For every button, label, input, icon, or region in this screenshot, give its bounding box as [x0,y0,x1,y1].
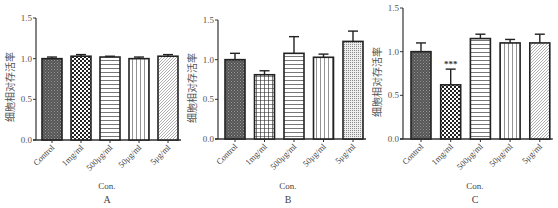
y-tick-label: 1.0 [21,54,33,64]
x-tick-label: Control [214,141,240,167]
x-tick-label: 1mg/ml [243,141,269,167]
x-tick-label: 5μg/ml [520,141,545,166]
x-tick-label: 1mg/ml [429,141,455,167]
bar-1mgml: ***1mg/ml [429,59,460,167]
bar-1mgml: 1mg/ml [60,55,91,169]
x-tick-label: 50μg/ml [487,141,515,169]
y-tick-label: 0.5 [21,94,33,104]
y-tick-label: 1.0 [203,55,215,65]
y-tick-label: 1.5 [21,13,33,23]
y-tick-label: 1.0 [388,47,400,57]
y-tick-label: 0.0 [203,134,215,144]
bar-5gml: 5μg/ml [520,34,550,165]
x-tick-label: 5μg/ml [148,142,173,167]
bar-50gml: 50μg/ml [116,57,149,170]
x-axis-title: Con. [466,181,483,191]
bar-5gml: 5μg/ml [333,31,363,166]
x-tick-label: 500μg/ml [454,141,485,172]
x-tick-label: 5μg/ml [333,141,358,166]
panel-c: 0.00.51.01.5细胞相对存活率Control***1mg/ml500μg… [371,3,553,205]
y-tick-label: 0.5 [388,90,400,100]
bar-50gml: 50μg/ml [301,54,334,169]
y-tick-label: 1.5 [203,15,215,25]
x-tick-label: 50μg/ml [116,142,144,170]
bar-50gml: 50μg/ml [487,39,520,168]
x-tick-label: Control [400,141,426,167]
panel-a: 0.00.51.01.5细胞相对存活率Control1mg/ml500μg/ml… [4,13,181,205]
significance-marker: *** [444,59,458,69]
y-tick-label: 0.0 [388,134,400,144]
bar-5gml: 5μg/ml [148,55,178,167]
panel-b: 0.00.51.01.5细胞相对存活率Control1mg/ml500μg/ml… [186,15,366,205]
panel-label: C [472,194,479,205]
x-axis-title: Con. [98,181,115,191]
panel-label: B [285,194,292,205]
y-tick-label: 1.5 [388,3,400,13]
y-axis-title: 细胞相对存活率 [371,47,383,117]
x-tick-label: 500μg/ml [84,142,115,173]
y-tick-label: 0.0 [21,135,33,145]
figure: 0.00.51.01.5细胞相对存活率Control1mg/ml500μg/ml… [0,0,558,208]
x-axis-title: Con. [279,181,296,191]
y-axis-title: 细胞相对存活率 [4,52,16,122]
x-tick-label: 1mg/ml [60,142,86,168]
y-tick-label: 0.5 [203,94,215,104]
bar-control: Control [400,43,431,167]
x-tick-label: 500μg/ml [268,141,299,172]
bar-1mgml: 1mg/ml [243,71,274,167]
y-axis-title: 细胞相对存活率 [186,53,198,123]
x-tick-label: Control [31,142,57,168]
x-tick-label: 50μg/ml [301,141,329,169]
bar-control: Control [214,53,245,166]
panel-label: A [103,194,111,205]
